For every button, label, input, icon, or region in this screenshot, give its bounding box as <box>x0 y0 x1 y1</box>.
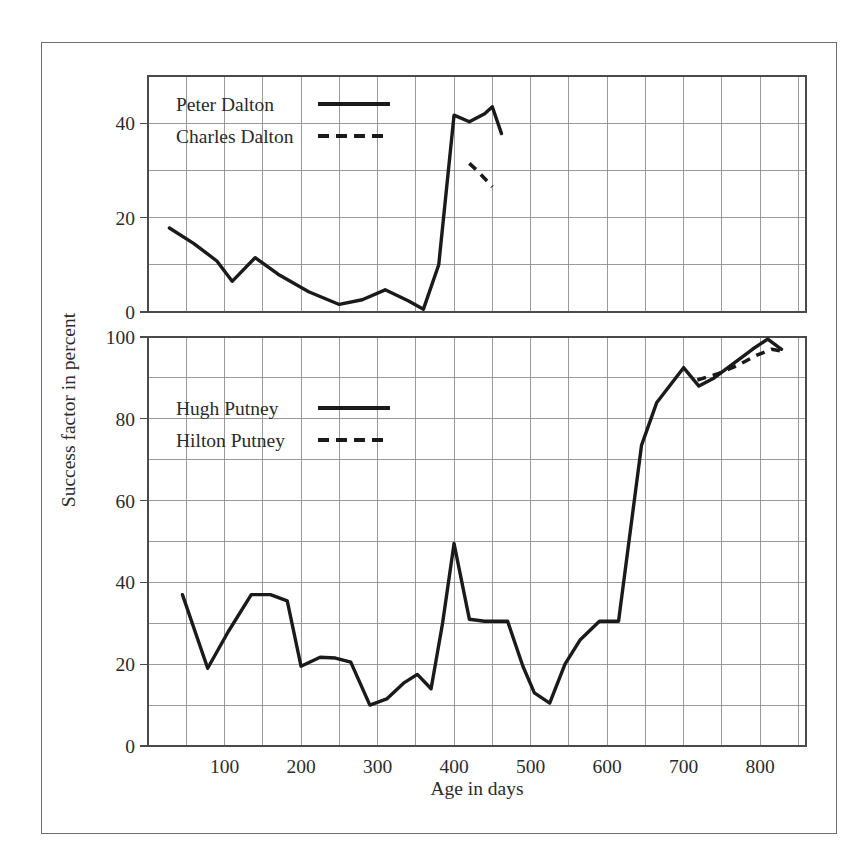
y-axis-tick-label: 40 <box>116 113 136 134</box>
series-line-hilton-putney <box>697 349 783 380</box>
y-axis-tick-label: 60 <box>116 491 136 512</box>
y-axis-tick-label: 0 <box>125 736 135 757</box>
legend-label-charles-dalton: Charles Dalton <box>176 126 294 147</box>
legend-upper: Peter DaltonCharles Dalton <box>176 94 390 147</box>
legend-label-hilton-putney: Hilton Putney <box>176 430 285 451</box>
x-axis-tick-label: 800 <box>745 756 774 777</box>
dual-line-chart: 0204002040608010010020030040050060070080… <box>0 0 864 867</box>
x-axis-tick-label: 200 <box>286 756 315 777</box>
y-axis-title: Success factor in percent <box>58 312 79 507</box>
y-axis-tick-label: 0 <box>125 302 135 323</box>
y-axis-tick-label: 20 <box>116 208 136 229</box>
legend-label-peter-dalton: Peter Dalton <box>176 94 274 115</box>
x-axis-tick-label: 600 <box>592 756 621 777</box>
y-axis-tick-label: 40 <box>116 572 136 593</box>
y-axis-tick-label: 20 <box>116 654 136 675</box>
x-axis-tick-label: 700 <box>669 756 698 777</box>
panel-lower: 020406080100100200300400500600700800 <box>106 327 806 777</box>
series-line-hugh-putney <box>182 339 781 705</box>
figure-root: 0204002040608010010020030040050060070080… <box>0 0 864 867</box>
y-axis-tick-label: 80 <box>116 409 136 430</box>
x-axis-tick-label: 300 <box>363 756 392 777</box>
x-axis-tick-label: 500 <box>516 756 545 777</box>
legend-lower: Hugh PutneyHilton Putney <box>176 398 390 451</box>
x-axis-title: Age in days <box>430 778 523 799</box>
x-axis-tick-label: 400 <box>439 756 468 777</box>
legend-label-hugh-putney: Hugh Putney <box>176 398 279 419</box>
y-axis-tick-label: 100 <box>106 327 135 348</box>
series-line-charles-dalton <box>469 163 492 187</box>
x-axis-tick-label: 100 <box>210 756 239 777</box>
